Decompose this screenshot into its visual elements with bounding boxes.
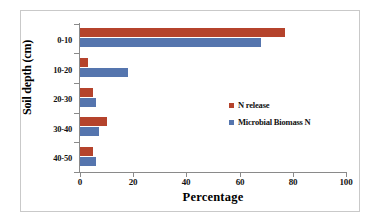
y-axis-tick-5 [74,172,79,173]
y-axis-tick-0 [74,24,79,25]
bar-microbial-biomass-n-40-50 [80,157,96,166]
y-tick-label-1: 10-20 [53,65,72,75]
x-tick-label-60: 60 [225,177,255,187]
y-axis-tick-1 [74,53,79,54]
x-tick-label-0: 0 [65,177,95,187]
y-tick-label-3: 30-40 [53,124,72,134]
bar-n-release-30-40 [80,117,107,126]
chart-figure: Soil depth (cm) 0-10 10-20 20-30 30-40 4… [0,0,377,224]
x-tick-label-40: 40 [171,177,201,187]
legend-label-microbial-biomass-n: Microbial Biomass N [238,117,311,127]
y-axis-tick-2 [74,83,79,84]
bar-microbial-biomass-n-10-20 [80,68,128,77]
x-tick-label-20: 20 [118,177,148,187]
y-tick-label-0: 0-10 [57,35,72,45]
x-tick-label-100: 100 [331,177,361,187]
legend-label-n-release: N release [238,100,269,110]
bar-n-release-20-30 [80,88,93,97]
bar-n-release-10-20 [80,58,88,67]
bar-microbial-biomass-n-30-40 [80,127,99,136]
bar-microbial-biomass-n-20-30 [80,98,96,107]
x-tick-label-80: 80 [278,177,308,187]
bar-microbial-biomass-n-0-10 [80,38,261,47]
y-axis-tick-3 [74,113,79,114]
y-tick-label-4: 40-50 [53,153,72,163]
blue-square-marker-icon [229,120,234,125]
legend-item-microbial-biomass-n: Microbial Biomass N [229,117,354,127]
y-axis-tick-4 [74,142,79,143]
x-axis-line [79,172,347,173]
legend-item-n-release: N release [229,100,354,110]
bar-n-release-0-10 [80,28,285,37]
chart-legend: N release Microbial Biomass N [229,100,354,134]
x-axis-title: Percentage [80,190,346,205]
red-square-marker-icon [229,103,234,108]
y-tick-label-2: 20-30 [53,94,72,104]
y-axis-tick-labels: 0-10 10-20 20-30 30-40 40-50 [0,0,72,224]
bar-n-release-40-50 [80,147,93,156]
